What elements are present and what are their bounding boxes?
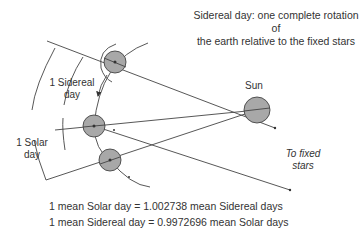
sidereal-day-label: 1 Sidereal day	[42, 77, 102, 101]
solar-day-label: 1 Solar day	[12, 137, 52, 161]
sidereal-day-arc	[63, 57, 83, 150]
equation-solar-to-sidereal: 1 mean Solar day = 1.002738 mean Siderea…	[49, 200, 283, 212]
title-line-1: Sidereal day: one complete rotation of	[190, 9, 362, 35]
fixed-stars-label-line-1: To fixed	[278, 148, 328, 160]
equation-sidereal-to-solar: 1 mean Sidereal day = 0.9972696 mean Sol…	[49, 216, 289, 228]
fixed-stars-label: To fixed stars	[278, 148, 328, 172]
solar-day-label-line-2: day	[12, 149, 52, 161]
solar-day-label-line-1: 1 Solar	[12, 137, 52, 149]
fixed-stars-label-line-2: stars	[278, 160, 328, 172]
sun-label: Sun	[245, 80, 263, 92]
sidereal-day-label-line-2: day	[42, 89, 102, 101]
title-line-2: the earth relative to the fixed stars	[190, 35, 362, 48]
fixed-star-line-middle	[94, 126, 290, 190]
sidereal-day-label-line-1: 1 Sidereal	[42, 77, 102, 89]
sun-body	[244, 97, 270, 123]
diagram-title: Sidereal day: one complete rotation of t…	[190, 9, 362, 48]
